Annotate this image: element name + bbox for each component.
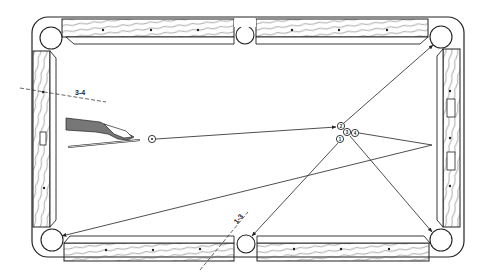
left-rail xyxy=(33,51,56,227)
pocket-bottom-left xyxy=(41,229,63,251)
bottom-left-rail xyxy=(64,236,234,261)
right-rail xyxy=(437,49,460,227)
object-ball-3: 3 xyxy=(343,128,350,135)
object-ball-2: 2 xyxy=(337,122,344,129)
pocket-bottom-middle xyxy=(237,235,255,253)
pocket-top-middle xyxy=(236,26,254,44)
bottom-right-rail xyxy=(257,236,430,261)
table-frame xyxy=(32,17,464,257)
pocket-top-right xyxy=(430,26,452,48)
top-right-rail xyxy=(256,19,428,44)
pool-table-diagram: 3-4 1-3 2 3 4 1 xyxy=(0,0,484,278)
shot-paths xyxy=(62,45,433,236)
pockets xyxy=(40,19,452,253)
top-left-rail xyxy=(62,19,234,44)
pocket-bottom-right xyxy=(430,229,452,251)
label-1-3: 1-3 xyxy=(232,213,244,225)
object-ball-1: 1 xyxy=(336,135,343,142)
cue-ball xyxy=(148,135,155,142)
label-3-4: 3-4 xyxy=(75,89,85,96)
pocket-top-left xyxy=(40,27,62,49)
cue-and-arm xyxy=(66,118,140,147)
object-ball-4: 4 xyxy=(351,129,358,136)
